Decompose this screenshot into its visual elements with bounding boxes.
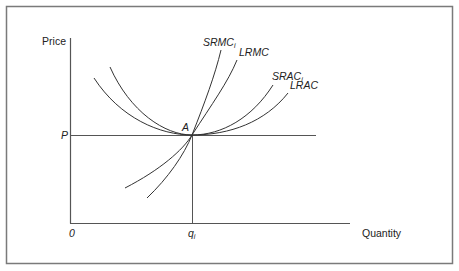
x-axis-label: Quantity <box>362 227 402 239</box>
cost-curves-diagram: Price Quantity 0 P qi A SRMCi LRMC SRACi… <box>0 0 459 271</box>
lrmc-curve <box>125 60 237 188</box>
srmc-label: SRMCi <box>203 36 236 49</box>
origin-label: 0 <box>69 227 75 239</box>
point-a-label: A <box>181 121 189 133</box>
lrac-label: LRAC <box>290 79 318 91</box>
srac-curve <box>110 67 273 135</box>
price-level-label: P <box>61 129 68 141</box>
quantity-label: qi <box>188 227 196 240</box>
lrac-curve <box>94 78 288 135</box>
y-axis-label: Price <box>42 35 66 47</box>
lrmc-label: LRMC <box>239 46 269 58</box>
